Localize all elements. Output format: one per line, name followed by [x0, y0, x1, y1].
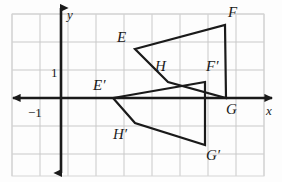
label-H-prime: H′ — [113, 127, 127, 142]
label-G-prime: G′ — [206, 148, 220, 163]
label-x-axis: x — [266, 104, 272, 117]
coordinate-plane-figure: y x 1 −1 E F G H E′ F′ G′ H′ — [0, 0, 282, 182]
polygon-shapes — [113, 25, 226, 145]
label-E-prime: E′ — [93, 78, 105, 93]
label-F-prime: F′ — [206, 59, 218, 74]
figure-canvas — [0, 0, 282, 182]
label-G: G — [226, 102, 237, 117]
label-E: E — [117, 30, 126, 45]
label-F: F — [228, 5, 237, 20]
axes — [13, 8, 272, 173]
label-y-axis: y — [67, 8, 73, 21]
tick-label-x-neg1: −1 — [28, 106, 42, 119]
label-H: H — [155, 59, 166, 74]
tick-label-y-1: 1 — [51, 66, 58, 79]
